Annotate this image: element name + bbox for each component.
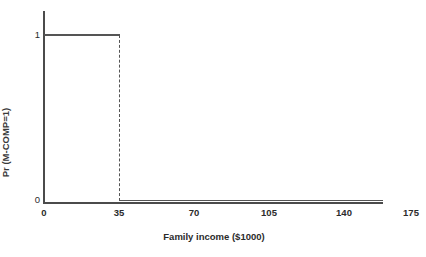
step-segment-low — [119, 200, 383, 202]
y-tick-label-1: 1 — [26, 30, 40, 40]
chart-figure: Pr (M-COMP=1) 1 0 0 35 70 105 140 175 Fa… — [0, 0, 426, 257]
y-axis-title-text: Pr (M-COMP=1) — [0, 108, 11, 177]
step-drop-dashed-line — [119, 35, 120, 201]
x-tick-label-140: 140 — [324, 207, 364, 218]
y-axis-line — [43, 11, 45, 204]
x-tick-label-0: 0 — [24, 207, 64, 218]
x-axis-title: Family income ($1000) — [44, 231, 384, 242]
x-tick-label-35: 35 — [99, 207, 139, 218]
x-tick-label-175: 175 — [391, 207, 426, 218]
y-tick-label-0: 0 — [26, 195, 40, 205]
step-segment-high — [44, 34, 120, 36]
x-axis-line — [43, 202, 383, 204]
x-tick-label-70: 70 — [174, 207, 214, 218]
x-tick-label-105: 105 — [249, 207, 289, 218]
